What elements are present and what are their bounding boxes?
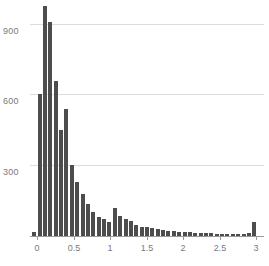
x-axis-tick-label: 2 [180, 243, 185, 253]
histogram-bar [118, 216, 122, 236]
histogram-bar [86, 204, 90, 236]
histogram-bar [64, 109, 68, 236]
histogram-bar [102, 219, 106, 236]
histogram-bar [107, 222, 111, 236]
x-axis-tick-label: 2.5 [214, 243, 227, 253]
histogram-bar [91, 212, 95, 236]
histogram-bar [43, 6, 47, 236]
histogram-bar [97, 217, 101, 236]
x-axis-tick-mark [256, 237, 257, 240]
x-axis-tick-label: 0.5 [68, 243, 81, 253]
x-axis-tick-mark [147, 237, 148, 240]
histogram-bar [124, 219, 128, 236]
x-axis-tick-mark [220, 237, 221, 240]
histogram-bar [252, 222, 256, 236]
histogram-bar [156, 229, 160, 236]
histogram-bar [48, 22, 52, 236]
x-axis-tick-mark [74, 237, 75, 240]
histogram-bar [59, 130, 63, 236]
x-axis-tick-label: 0 [34, 243, 39, 253]
bars-group [0, 0, 269, 236]
histogram-bar [145, 227, 149, 236]
histogram-bar [54, 81, 58, 236]
histogram-chart: 300600900 00.511.522.53 [0, 0, 269, 266]
histogram-bar [150, 228, 154, 236]
x-axis-tick-mark [110, 237, 111, 240]
x-axis-tick-mark [183, 237, 184, 240]
x-axis-tick-mark [37, 237, 38, 240]
histogram-bar [134, 225, 138, 236]
histogram-bar [75, 182, 79, 236]
histogram-bar [129, 221, 133, 236]
x-axis-tick-label: 1 [107, 243, 112, 253]
histogram-bar [140, 227, 144, 236]
x-axis-tick-label: 1.5 [141, 243, 154, 253]
histogram-bar [81, 194, 85, 236]
histogram-bar [113, 208, 117, 236]
histogram-bar [70, 165, 74, 236]
histogram-bar [38, 94, 42, 236]
x-axis-tick-label: 3 [253, 243, 258, 253]
